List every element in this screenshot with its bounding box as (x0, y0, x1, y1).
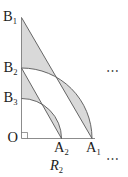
point-label-b1: B1 (3, 9, 17, 25)
ellipsis-mid: ⋯ (106, 64, 120, 77)
label-base: A (86, 139, 96, 155)
right-angle-marker (22, 133, 28, 139)
label-sub: 2 (13, 67, 17, 77)
label-base: B (4, 89, 14, 105)
caption-base: R (50, 157, 59, 173)
figure-canvas: B1 B2 B3 O A2 A1 R2 ⋯ ⋯ (0, 0, 128, 177)
caption-sub: 2 (59, 165, 63, 175)
label-base: B (4, 59, 14, 75)
label-base: A (54, 139, 64, 155)
label-sub: 2 (64, 147, 68, 157)
point-label-b2: B2 (4, 60, 18, 76)
point-label-a1: A1 (86, 140, 101, 156)
figure-caption: R2 (50, 158, 63, 174)
ellipsis-bottom: ⋯ (106, 152, 120, 165)
label-sub: 1 (96, 147, 100, 157)
point-label-o: O (8, 130, 18, 146)
label-base: B (3, 8, 13, 24)
label-base: O (8, 129, 18, 145)
point-label-a2: A2 (54, 140, 69, 156)
label-sub: 3 (13, 97, 17, 107)
label-sub: 1 (13, 16, 17, 26)
point-label-b3: B3 (4, 90, 18, 106)
